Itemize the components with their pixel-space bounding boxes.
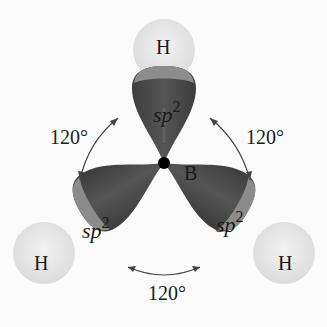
orbital-label-bottom-left: sp2	[82, 214, 110, 243]
orbital-label-bottom-right: sp2	[216, 208, 244, 237]
angle-label-upper-right: 120°	[246, 126, 284, 148]
hydrogen-label-bottom-left: H	[34, 252, 48, 274]
angle-label-bottom: 120°	[148, 282, 186, 304]
hydrogen-label-top: H	[156, 36, 170, 58]
boron-nucleus	[158, 157, 170, 169]
hydrogen-label-bottom-right: H	[278, 252, 292, 274]
central-atom-label: B	[184, 162, 197, 184]
angle-label-upper-left: 120°	[50, 126, 88, 148]
arc-bottom	[128, 267, 200, 275]
bh3-sp2-hybridization-diagram: H H H B sp2 sp2 sp2 120° 120° 120°	[0, 0, 327, 327]
